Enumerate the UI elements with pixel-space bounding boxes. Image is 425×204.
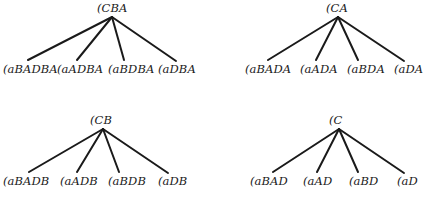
tree-leaf-label: (aBAD <box>250 176 288 188</box>
tree-leaf-label: (aBDA <box>347 64 385 76</box>
tree-root-label: (CA <box>326 3 348 15</box>
tree-cb: (CB(aBADB(aADB(aBDB(aDB <box>0 102 212 204</box>
tree-leaf-label: (aDA <box>394 64 423 76</box>
tree-edge <box>103 129 168 173</box>
tree-leaf-label: (aBD <box>349 176 378 188</box>
tree-leaf-label: (aADA <box>300 64 338 76</box>
tree-leaf-label: (aADB <box>60 176 98 188</box>
tree-leaf-label: (aBDBA <box>108 64 154 76</box>
tree-leaf-label: (aDB <box>158 176 187 188</box>
tree-leaf-label: (aADBA <box>57 64 103 76</box>
tree-root-label: (C <box>329 115 343 127</box>
tree-cba: (CBA(aBADBA(aADBA(aBDBA(aDBA <box>0 0 212 102</box>
tree-leaf-label: (aBADB <box>3 176 49 188</box>
tree-edges <box>212 0 424 102</box>
tree-edges <box>212 102 424 204</box>
tree-root-label: (CB <box>90 115 112 127</box>
tree-edge <box>28 17 112 60</box>
tree-edges <box>0 0 212 102</box>
tree-edge <box>29 129 103 172</box>
tree-leaf-label: (aAD <box>303 176 332 188</box>
tree-leaf-label: (aBDB <box>108 176 146 188</box>
tree-leaf-label: (aDBA <box>158 64 196 76</box>
tree-leaf-label: (aBADBA <box>3 64 58 76</box>
tree-leaf-label: (aBADA <box>245 64 291 76</box>
tree-root-label: (CBA <box>97 3 127 15</box>
tree-edge <box>77 17 112 60</box>
tree-c: (C(aBAD(aAD(aBD(aD <box>212 102 424 204</box>
derivation-trees-figure: (CBA(aBADBA(aADBA(aBDBA(aDBA(CA(aBADA(aA… <box>0 0 425 204</box>
tree-leaf-label: (aD <box>397 176 418 188</box>
tree-ca: (CA(aBADA(aADA(aBDA(aDA <box>212 0 424 102</box>
